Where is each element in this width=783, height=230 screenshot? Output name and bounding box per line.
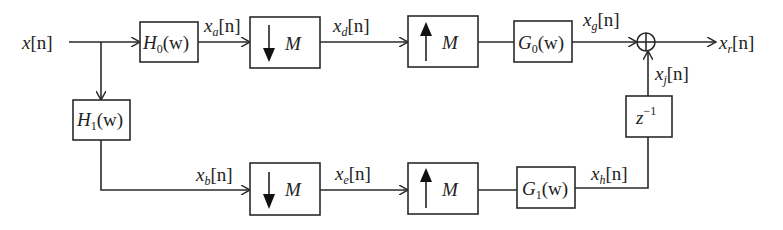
downsampler-bottom-block: M (250, 163, 320, 215)
upsampler-bottom-block: M (408, 163, 478, 214)
svg-text:G0(w): G0(w) (518, 32, 564, 56)
signal-xh-label: xh[n] (590, 163, 628, 187)
signal-xe-label: xe[n] (334, 163, 371, 187)
svg-text:M: M (441, 179, 459, 200)
h1-filter-block: H1(w) (73, 100, 130, 140)
svg-text:M: M (441, 32, 459, 53)
signal-xa-label: xa[n] (203, 15, 241, 39)
svg-text:M: M (284, 179, 302, 200)
output-label: xr[n] (718, 32, 754, 56)
filter-bank-diagram: x[n] xr[n] H0(w) xa[n] M xd[n] M G0(w) x… (0, 0, 783, 230)
signal-xg-label: xg[n] (582, 9, 620, 33)
g0-filter-block: G0(w) (514, 21, 572, 62)
g1-filter-block: G1(w) (517, 167, 575, 208)
adder-node (637, 33, 655, 51)
svg-text:H1(w): H1(w) (76, 109, 123, 133)
upsampler-top-block: M (408, 16, 478, 67)
signal-xj-label: xj[n] (654, 63, 689, 87)
downsampler-top-block: M (250, 17, 320, 68)
delay-block: z−1 (626, 96, 672, 137)
h0-filter-block: H0(w) (140, 22, 198, 62)
signal-xd-label: xd[n] (332, 15, 370, 39)
svg-text:M: M (284, 33, 302, 54)
svg-text:H0(w): H0(w) (142, 32, 189, 56)
signal-xb-label: xb[n] (195, 164, 233, 188)
svg-text:G1(w): G1(w) (522, 178, 568, 202)
input-label: x[n] (21, 32, 53, 53)
